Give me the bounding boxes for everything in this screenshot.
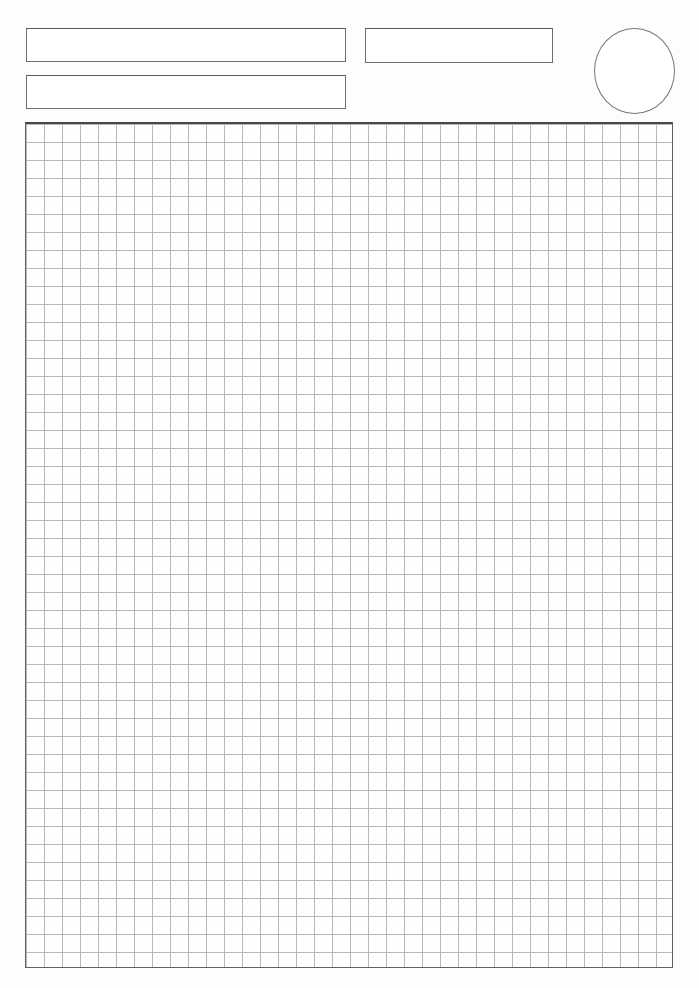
graph-grid <box>25 122 673 968</box>
score-circle[interactable] <box>594 28 675 114</box>
header-field-box-1[interactable] <box>26 28 346 62</box>
header-field-box-2[interactable] <box>26 75 346 109</box>
header-field-box-3[interactable] <box>365 28 553 63</box>
worksheet-page <box>0 0 699 988</box>
